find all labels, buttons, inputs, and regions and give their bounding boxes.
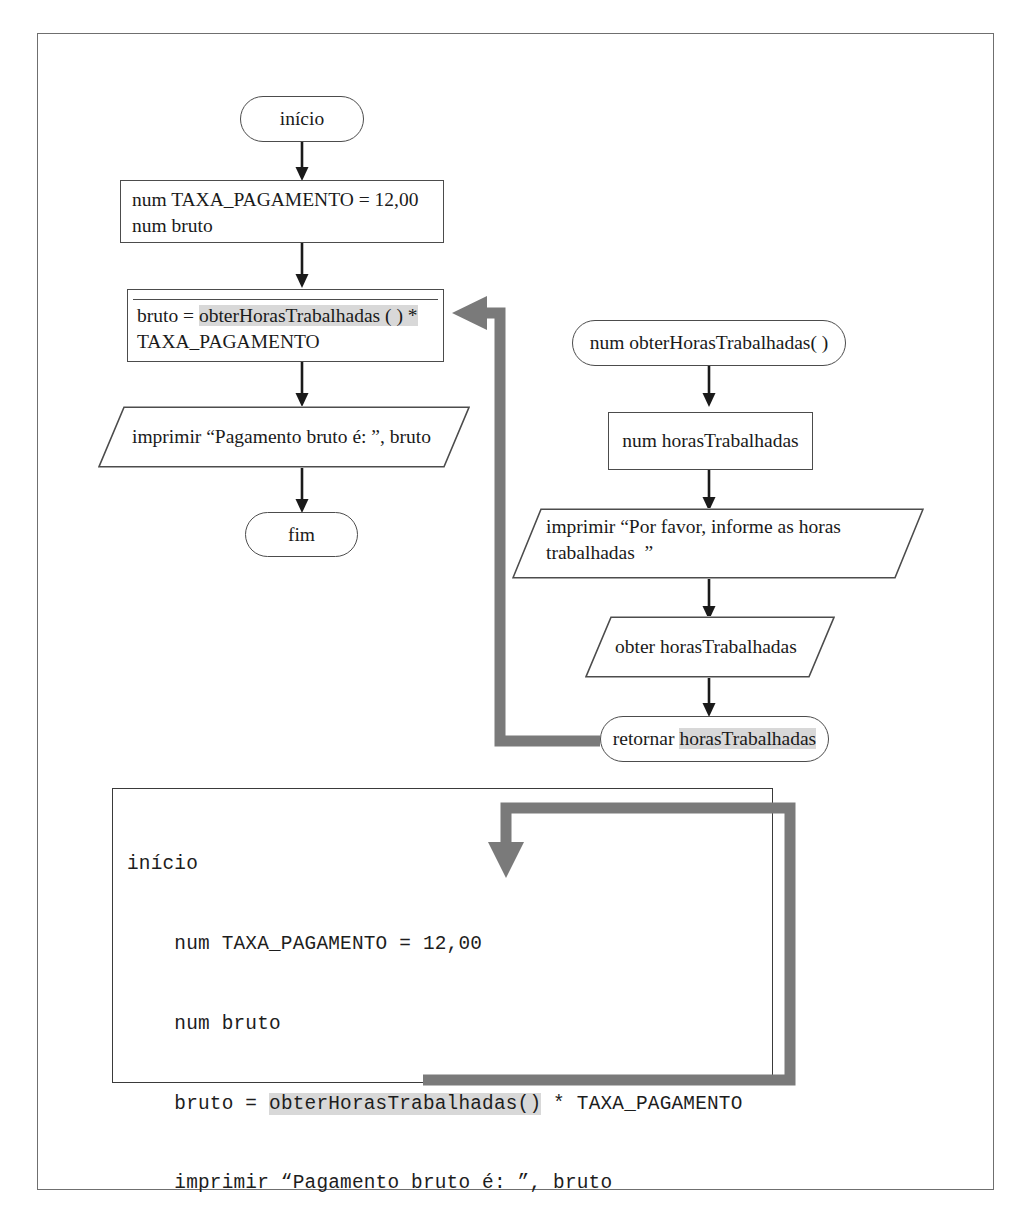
connector-output-fim — [288, 468, 316, 514]
node-retornar-prefix: retornar — [613, 728, 680, 749]
node-retornar-text: retornar horasTrabalhadas — [613, 726, 816, 752]
node-assign-prefix: bruto = — [137, 305, 199, 326]
code-line-call-highlight: obterHorasTrabalhadas() — [269, 1093, 541, 1115]
node-declare-main: num TAXA_PAGAMENTO = 12,00 num bruto — [120, 180, 444, 243]
node-fim: fim — [245, 512, 358, 557]
code-line: num bruto — [127, 1011, 778, 1038]
code-line-call-suffix: * TAXA_PAGAMENTO — [541, 1093, 742, 1115]
connector-declare-prompt — [695, 470, 723, 512]
node-obter-horas-label: obter horasTrabalhadas — [585, 634, 819, 660]
node-assign-bruto: bruto = obterHorasTrabalhadas ( ) * TAXA… — [127, 289, 444, 362]
node-obter-horas: obter horasTrabalhadas — [585, 616, 835, 678]
code-line: imprimir “Pagamento bruto é: ”, bruto — [127, 1170, 778, 1197]
node-inicio-label: início — [280, 106, 324, 132]
node-assign-line1: bruto = obterHorasTrabalhadas ( ) * — [137, 303, 437, 329]
node-imprimir-prompt: imprimir “Por favor, informe as horas tr… — [512, 508, 924, 579]
node-declare-main-line2: num bruto — [132, 213, 432, 239]
code-line: num TAXA_PAGAMENTO = 12,00 — [127, 931, 778, 958]
node-inicio: início — [240, 96, 364, 142]
node-assign-call-highlight: obterHorasTrabalhadas ( ) * — [199, 305, 418, 326]
connector-metodo-header-declare — [695, 366, 723, 408]
connector-inicio-declare — [288, 142, 316, 182]
node-imprimir-prompt-line1: imprimir “Por favor, informe as horas — [546, 514, 841, 540]
node-assign-line2: TAXA_PAGAMENTO — [137, 329, 437, 355]
node-imprimir-pagamento-label: imprimir “Pagamento bruto é: ”, bruto — [98, 424, 453, 450]
code-line: início — [127, 851, 778, 878]
node-declare-main-line1: num TAXA_PAGAMENTO = 12,00 — [132, 187, 432, 213]
node-declare-horas-label: num horasTrabalhadas — [622, 428, 798, 454]
connector-input-return — [695, 678, 723, 718]
node-imprimir-prompt-line2: trabalhadas ” — [546, 540, 841, 566]
node-metodo-header-label: num obterHorasTrabalhadas( ) — [590, 330, 829, 356]
node-fim-label: fim — [288, 522, 315, 548]
node-metodo-header: num obterHorasTrabalhadas( ) — [572, 320, 846, 366]
node-imprimir-prompt-text: imprimir “Por favor, informe as horas tr… — [512, 508, 863, 565]
node-retornar-highlight: horasTrabalhadas — [679, 728, 816, 749]
connector-declare-assign — [288, 243, 316, 289]
code-line-call-prefix: bruto = — [127, 1093, 269, 1115]
connector-assign-output — [288, 362, 316, 408]
code-listing-text: início num TAXA_PAGAMENTO = 12,00 num br… — [127, 798, 778, 1216]
node-declare-horas: num horasTrabalhadas — [608, 412, 813, 470]
node-imprimir-pagamento: imprimir “Pagamento bruto é: ”, bruto — [98, 406, 470, 468]
code-listing-box: início num TAXA_PAGAMENTO = 12,00 num br… — [112, 788, 773, 1083]
node-retornar: retornar horasTrabalhadas — [600, 716, 829, 762]
connector-prompt-input — [695, 579, 723, 621]
figure-root: início num TAXA_PAGAMENTO = 12,00 num br… — [0, 0, 1030, 1216]
code-line-call: bruto = obterHorasTrabalhadas() * TAXA_P… — [127, 1091, 778, 1118]
